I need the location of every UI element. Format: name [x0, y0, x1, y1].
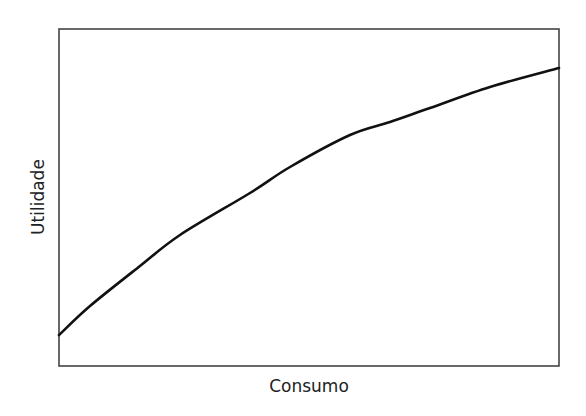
utility-chart: Consumo Utilidade	[0, 0, 586, 416]
y-axis-label: Utilidade	[28, 159, 48, 235]
x-axis-label: Consumo	[269, 376, 349, 396]
utility-curve	[59, 68, 559, 335]
plot-frame	[59, 29, 559, 366]
